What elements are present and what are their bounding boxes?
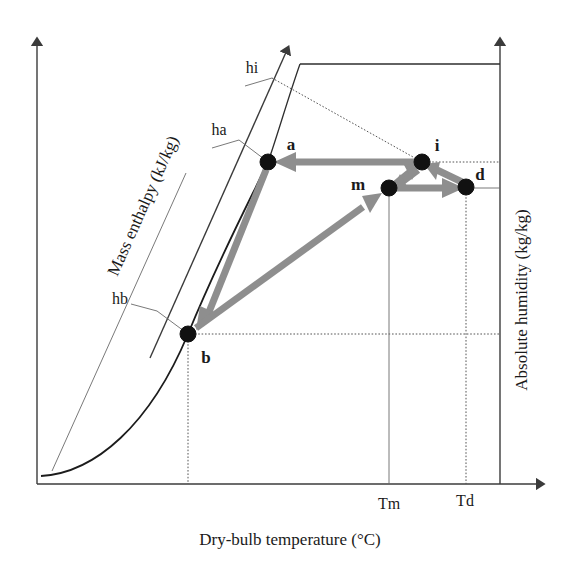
chart-canvas: a b m i d hi ha hb Tm Td Dry-bulb temper… xyxy=(0,0,574,574)
enthalpy-tick-label-group: hi ha hb xyxy=(112,59,259,307)
process-arrow-group xyxy=(196,152,464,330)
state-label-i: i xyxy=(435,136,440,155)
state-point-b[interactable] xyxy=(180,326,196,342)
axis-title-drybulb: Dry-bulb temperature (°C) xyxy=(199,530,380,549)
process-arrow-a-to-b xyxy=(209,170,266,312)
enthalpy-tick-label-hb: hb xyxy=(112,290,128,307)
state-point-d[interactable] xyxy=(458,179,474,195)
axis-title-humidity: Absolute humidity (kg/kg) xyxy=(512,209,531,390)
xaxis-tick-label-td: Td xyxy=(456,492,474,509)
state-label-b: b xyxy=(201,348,210,367)
process-arrow-b-to-m xyxy=(196,207,363,328)
enthalpy-tick-label-hi: hi xyxy=(246,59,259,76)
process-arrow-head-m xyxy=(362,193,382,213)
hb-tick-mark xyxy=(131,304,157,311)
process-arrow-head-a xyxy=(274,152,296,172)
state-point-i[interactable] xyxy=(414,154,430,170)
saturation-curve xyxy=(41,162,268,476)
axis-title-enthalpy: Mass enthalpy (kJ/kg) xyxy=(104,133,183,279)
state-label-d: d xyxy=(475,165,485,184)
state-label-m: m xyxy=(351,175,365,194)
hi-tick-mark xyxy=(245,78,272,86)
process-arrow-d-to-i xyxy=(437,170,462,182)
state-point-m[interactable] xyxy=(381,180,397,196)
xaxis-tick-label-group: Tm Td xyxy=(378,492,474,512)
ha-tick-mark xyxy=(212,140,239,148)
state-point-group xyxy=(180,154,474,342)
process-arrow-i-to-m xyxy=(402,170,418,182)
state-point-a[interactable] xyxy=(260,154,276,170)
humidity-temperature-guides xyxy=(188,162,500,484)
xaxis-tick-label-tm: Tm xyxy=(378,495,401,512)
enthalpy-guide-lines xyxy=(131,78,422,334)
psychrometric-chart-figure: a b m i d hi ha hb Tm Td Dry-bulb temper… xyxy=(0,0,574,574)
state-label-a: a xyxy=(287,135,296,154)
enthalpy-tick-label-ha: ha xyxy=(211,121,226,138)
